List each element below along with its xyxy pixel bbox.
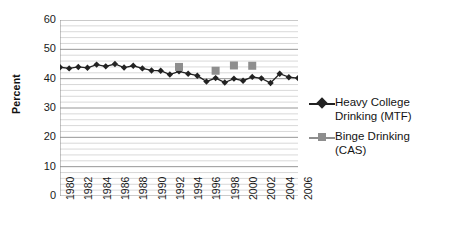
legend-item[interactable]: Binge Drinking(CAS) xyxy=(309,130,454,157)
x-axis-tick-label: 1988 xyxy=(137,177,149,200)
x-axis-tick-label: 1992 xyxy=(174,177,186,200)
x-axis-tick-label: 2002 xyxy=(265,177,277,200)
legend-diamond-icon xyxy=(309,97,335,110)
legend-item[interactable]: Heavy CollegeDrinking (MTF) xyxy=(309,96,454,123)
data-point-marker-mtf xyxy=(112,61,118,67)
data-point-marker-mtf xyxy=(139,65,145,71)
x-axis-tick-label: 1990 xyxy=(156,177,168,200)
x-axis-tick-label: 2000 xyxy=(247,177,259,200)
data-point-marker-mtf xyxy=(130,63,136,69)
x-axis-tick-label: 2006 xyxy=(302,177,314,200)
data-point-marker-mtf xyxy=(295,75,298,81)
data-point-marker-mtf xyxy=(212,75,218,81)
data-point-marker-mtf xyxy=(203,78,209,84)
legend-label-line1: Binge Drinking xyxy=(335,130,410,144)
x-axis-tick-labels: 1980198219841986198819901992199419961998… xyxy=(60,198,298,250)
y-axis-tick-label: 60 xyxy=(28,13,56,25)
x-axis-tick-label: 1986 xyxy=(119,177,131,200)
legend-label-line2: Drinking (MTF) xyxy=(335,110,412,124)
chart-legend: Heavy CollegeDrinking (MTF)Binge Drinkin… xyxy=(309,96,454,164)
y-axis-title: Percent xyxy=(10,59,22,129)
data-point-marker-mtf xyxy=(84,65,90,71)
chart-container: Percent 6050403020100 198019821984198619… xyxy=(0,0,454,250)
data-point-marker-mtf xyxy=(258,75,264,81)
x-axis-tick-label: 1982 xyxy=(82,177,94,200)
legend-label: Heavy CollegeDrinking (MTF) xyxy=(335,96,412,123)
chart-svg xyxy=(60,20,298,196)
data-point-marker-mtf xyxy=(185,70,191,76)
gridlines xyxy=(60,20,298,196)
legend-square-icon xyxy=(309,131,335,144)
y-axis-tick-label: 20 xyxy=(28,130,56,142)
x-axis-tick-label: 1998 xyxy=(229,177,241,200)
data-point-marker-mtf xyxy=(286,74,292,80)
y-axis-tick-label: 10 xyxy=(28,160,56,172)
data-point-marker-cas xyxy=(230,61,238,69)
legend-label: Binge Drinking(CAS) xyxy=(335,130,410,157)
x-axis-tick-label: 2004 xyxy=(284,177,296,200)
data-point-marker-mtf xyxy=(121,64,127,70)
data-point-marker-cas xyxy=(212,67,220,75)
y-axis-tick-labels: 6050403020100 xyxy=(24,0,56,250)
y-axis-tick-label: 0 xyxy=(28,189,56,201)
x-axis-tick-label: 1996 xyxy=(210,177,222,200)
data-point-marker-mtf xyxy=(249,74,255,80)
legend-label-line2: (CAS) xyxy=(335,144,410,158)
x-axis-tick-label: 1994 xyxy=(192,177,204,200)
y-axis-tick-label: 30 xyxy=(28,101,56,113)
data-point-marker-mtf xyxy=(66,65,72,71)
plot-area xyxy=(60,20,298,196)
data-point-marker-mtf xyxy=(103,63,109,69)
data-point-marker-mtf xyxy=(167,71,173,77)
legend-label-line1: Heavy College xyxy=(335,96,412,110)
data-point-marker-mtf xyxy=(194,73,200,79)
x-axis-tick-label: 1984 xyxy=(101,177,113,200)
y-axis-tick-label: 40 xyxy=(28,72,56,84)
data-point-marker-cas xyxy=(248,62,256,70)
data-point-marker-mtf xyxy=(231,75,237,81)
data-point-marker-mtf xyxy=(75,64,81,70)
y-axis-tick-label: 50 xyxy=(28,42,56,54)
data-point-marker-cas xyxy=(175,63,183,71)
x-axis-tick-label: 1980 xyxy=(64,177,76,200)
data-point-marker-mtf xyxy=(60,64,63,70)
